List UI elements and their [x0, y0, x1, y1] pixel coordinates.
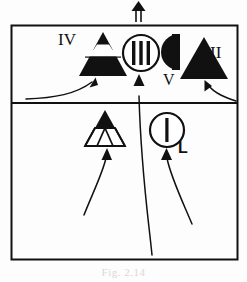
symbol-label-ii: II: [210, 44, 221, 61]
symbol-label-iv: IV: [58, 31, 76, 48]
symbol-label-l: L: [178, 140, 188, 156]
symbol-iii-circle-three-bars: [123, 35, 159, 71]
symbol-v-half-disc: [161, 34, 180, 70]
annotation-arrows: [26, 74, 236, 255]
symbol-label-v: V: [163, 72, 175, 88]
symbol-subdivided-triangle: [85, 110, 125, 146]
figure-caption: Fig. 2.14: [0, 266, 247, 278]
arrow-to-iii: [134, 74, 153, 255]
arrow-to-subdivided-triangle: [84, 148, 112, 215]
figure-container: IV II V L Fig. 2.14: [0, 0, 247, 282]
arrow-to-ii: [205, 80, 237, 101]
north-arrow-icon: [132, 1, 146, 22]
arrow-to-iv: [26, 78, 98, 100]
arrow-to-l: [161, 148, 192, 224]
symbol-iv-banded-triangle: [79, 32, 127, 76]
